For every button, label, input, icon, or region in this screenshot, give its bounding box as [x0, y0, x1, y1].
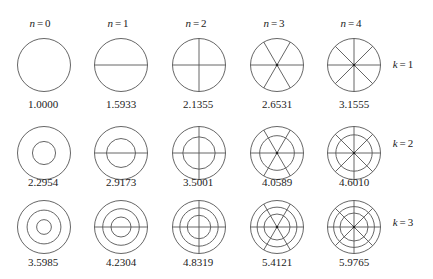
frequency-value: 3.1555 — [339, 98, 369, 110]
center-dot — [353, 152, 356, 155]
header-var: n — [29, 17, 35, 29]
row-value: 2 — [408, 137, 414, 149]
row-label-k1: k=1 — [393, 58, 414, 70]
frequency-value: 3.5001 — [183, 176, 213, 188]
frequency-value: 5.9765 — [339, 256, 369, 268]
mode-shapes-canvas — [0, 0, 433, 279]
equals-sign: = — [35, 17, 45, 29]
center-dot — [276, 152, 279, 155]
equals-sign: = — [398, 137, 408, 149]
drum-modes-figure: n=0 n=1 n=2 n=3 n=4 k=1 k=2 k=3 1.0000 1… — [0, 0, 433, 279]
header-value: 2 — [201, 17, 207, 29]
header-value: 4 — [356, 17, 362, 29]
nodal-circle — [32, 141, 55, 164]
header-value: 0 — [45, 17, 51, 29]
equals-sign: = — [346, 17, 356, 29]
frequency-value: 1.5933 — [106, 98, 136, 110]
frequency-value: 2.1355 — [183, 98, 213, 110]
frequency-value: 5.4121 — [262, 256, 292, 268]
row-label-k3: k=3 — [393, 216, 414, 228]
equals-sign: = — [113, 17, 123, 29]
frequency-value: 2.6531 — [262, 98, 292, 110]
column-header-n0: n=0 — [29, 17, 50, 29]
header-value: 3 — [279, 17, 285, 29]
center-dot — [353, 226, 356, 229]
drum-boundary-circle — [18, 39, 71, 92]
equals-sign: = — [269, 17, 279, 29]
header-var: n — [340, 17, 346, 29]
column-header-n4: n=4 — [340, 17, 361, 29]
center-dot — [353, 64, 356, 67]
frequency-value: 4.0589 — [262, 176, 292, 188]
header-value: 1 — [123, 17, 129, 29]
header-var: n — [185, 17, 191, 29]
frequency-value: 1.0000 — [28, 98, 58, 110]
center-dot — [276, 226, 279, 229]
header-var: n — [107, 17, 113, 29]
frequency-value: 2.9173 — [106, 176, 136, 188]
frequency-value: 4.2304 — [106, 256, 136, 268]
row-value: 3 — [408, 216, 414, 228]
equals-sign: = — [191, 17, 201, 29]
nodal-circle — [37, 220, 52, 235]
column-header-n3: n=3 — [263, 17, 284, 29]
frequency-value: 4.6010 — [339, 176, 369, 188]
frequency-value: 3.5985 — [28, 256, 58, 268]
row-label-k2: k=2 — [393, 137, 414, 149]
frequency-value: 4.8319 — [183, 256, 213, 268]
center-dot — [276, 64, 279, 67]
column-header-n1: n=1 — [107, 17, 128, 29]
column-header-n2: n=2 — [185, 17, 206, 29]
equals-sign: = — [398, 216, 408, 228]
drum-boundary-circle — [18, 127, 71, 180]
header-var: n — [263, 17, 269, 29]
nodal-circle — [27, 210, 61, 244]
drum-boundary-circle — [18, 201, 71, 254]
frequency-value: 2.2954 — [28, 176, 58, 188]
equals-sign: = — [398, 58, 408, 70]
row-value: 1 — [408, 58, 414, 70]
